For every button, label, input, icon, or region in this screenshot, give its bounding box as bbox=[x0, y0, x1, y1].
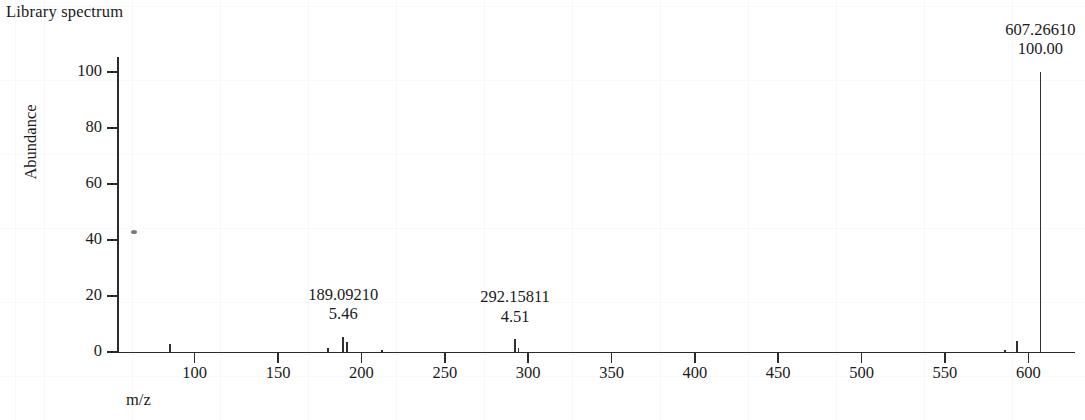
peak-annotation: 607.26610100.00 bbox=[980, 20, 1085, 59]
mass-spectrum-figure: Library spectrum Abundance m/z 020406080… bbox=[0, 0, 1085, 420]
x-axis-tick-label: 200 bbox=[321, 363, 401, 383]
x-axis-tick-label: 550 bbox=[905, 363, 985, 383]
spectrum-peaks bbox=[118, 58, 1075, 352]
spectrum-peak bbox=[169, 344, 171, 352]
peak-mz-label: 607.26610 bbox=[980, 20, 1085, 39]
x-axis-tick-label: 350 bbox=[572, 363, 652, 383]
peak-abundance-label: 100.00 bbox=[980, 39, 1085, 58]
x-axis-tick-label: 100 bbox=[155, 363, 235, 383]
peak-annotation: 189.092105.46 bbox=[283, 285, 403, 324]
spectrum-peak bbox=[327, 348, 329, 352]
x-axis-tick bbox=[1028, 352, 1030, 363]
x-axis-tick-label: 300 bbox=[488, 363, 568, 383]
spectrum-peak bbox=[381, 350, 383, 352]
x-axis-label: m/z bbox=[126, 390, 151, 410]
x-axis-tick-label: 600 bbox=[988, 363, 1068, 383]
x-axis-tick-label: 250 bbox=[405, 363, 485, 383]
y-axis-tick bbox=[107, 127, 118, 129]
y-axis-tick bbox=[107, 71, 118, 73]
spectrum-peak bbox=[346, 342, 348, 352]
spectrum-peak bbox=[1016, 341, 1018, 352]
peak-abundance-label: 4.51 bbox=[455, 307, 575, 326]
x-axis-tick bbox=[444, 352, 446, 363]
y-axis-tick-label: 0 bbox=[94, 341, 102, 361]
y-axis-tick-label: 20 bbox=[86, 285, 103, 305]
y-axis-tick bbox=[107, 351, 118, 353]
figure-title: Library spectrum bbox=[6, 2, 123, 22]
peak-abundance-label: 5.46 bbox=[283, 304, 403, 323]
x-axis-tick bbox=[861, 352, 863, 363]
peak-annotation: 292.158114.51 bbox=[455, 287, 575, 326]
x-axis-tick-label: 150 bbox=[238, 363, 318, 383]
x-axis-tick bbox=[194, 352, 196, 363]
x-axis-tick bbox=[527, 352, 529, 363]
x-axis-tick bbox=[777, 352, 779, 363]
y-axis-tick-label: 60 bbox=[86, 173, 103, 193]
x-axis-tick bbox=[611, 352, 613, 363]
x-axis-tick bbox=[944, 352, 946, 363]
spectrum-peak bbox=[1040, 72, 1042, 352]
x-axis-tick bbox=[277, 352, 279, 363]
x-axis-tick bbox=[694, 352, 696, 363]
spectrum-peak bbox=[514, 339, 516, 352]
peak-mz-label: 189.09210 bbox=[283, 285, 403, 304]
x-axis-tick-label: 500 bbox=[822, 363, 902, 383]
spectrum-peak bbox=[518, 348, 520, 352]
y-axis-tick-label: 80 bbox=[86, 117, 103, 137]
x-axis-tick bbox=[361, 352, 363, 363]
y-axis-label: Abundance bbox=[21, 82, 41, 202]
spectrum-peak bbox=[1004, 350, 1006, 352]
y-axis-tick-label: 100 bbox=[77, 61, 102, 81]
y-axis-tick bbox=[107, 183, 118, 185]
x-axis-tick-label: 400 bbox=[655, 363, 735, 383]
y-axis-tick bbox=[107, 239, 118, 241]
peak-mz-label: 292.15811 bbox=[455, 287, 575, 306]
spectrum-peak bbox=[342, 337, 344, 352]
y-axis-tick bbox=[107, 295, 118, 297]
y-axis-tick-label: 40 bbox=[86, 229, 103, 249]
x-axis-tick-label: 450 bbox=[738, 363, 818, 383]
